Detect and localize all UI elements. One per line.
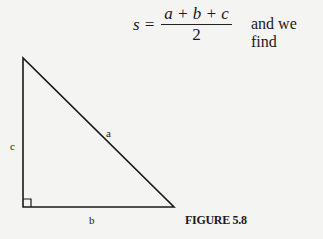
label-c: c (10, 140, 15, 152)
label-b: b (89, 214, 95, 226)
right-triangle-diagram (0, 0, 323, 239)
label-a: a (106, 127, 111, 139)
right-angle-marker (23, 199, 31, 207)
figure-caption: FIGURE 5.8 (185, 213, 247, 228)
